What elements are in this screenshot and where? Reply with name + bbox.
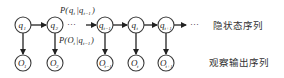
svg-text:1: 1 [24, 64, 27, 69]
emission-probability-label: P( O t | q t−1 ) [58, 35, 94, 46]
observed-node-o-t-minus-1: O t−1 [97, 55, 113, 71]
svg-text:t−1: t−1 [84, 11, 91, 16]
hidden-node-q-t: q t [128, 17, 144, 33]
svg-text:): ) [90, 35, 94, 45]
transition-probability-label: P( q t | q t−1 ) [59, 5, 95, 16]
hidden-node-q-t-plus-1: q t+1 [158, 17, 174, 33]
observed-node-o2: O 2 [47, 55, 63, 71]
hidden-sequence-label: 隐状态序列 [213, 20, 263, 31]
ellipsis-mid: ··· [67, 19, 76, 29]
hmm-diagram: q 1 q 2 q t−1 q t q t+1 O 1 O 2 O t−1 O [0, 0, 284, 78]
hidden-node-q1: q 1 [15, 17, 31, 33]
hidden-node-q2: q 2 [47, 17, 63, 33]
svg-text:1: 1 [24, 26, 27, 31]
observed-node-o-t-plus-1: O t+1 [158, 55, 174, 71]
observed-sequence-label: 观察输出序列 [209, 57, 269, 68]
observed-node-o1: O 1 [15, 55, 31, 71]
svg-text:t: t [74, 11, 76, 16]
svg-text:t−1: t−1 [83, 41, 90, 46]
svg-text:): ) [91, 5, 95, 15]
svg-text:t+1: t+1 [165, 26, 172, 31]
svg-text:t+1: t+1 [166, 64, 173, 69]
svg-text:t−1: t−1 [104, 26, 111, 31]
observed-node-o-t: O t [128, 55, 144, 71]
ellipsis-end: ··· [190, 19, 199, 29]
hidden-node-q-t-minus-1: q t−1 [97, 17, 113, 33]
svg-text:P(: P( [59, 5, 69, 15]
svg-text:t−1: t−1 [105, 64, 112, 69]
